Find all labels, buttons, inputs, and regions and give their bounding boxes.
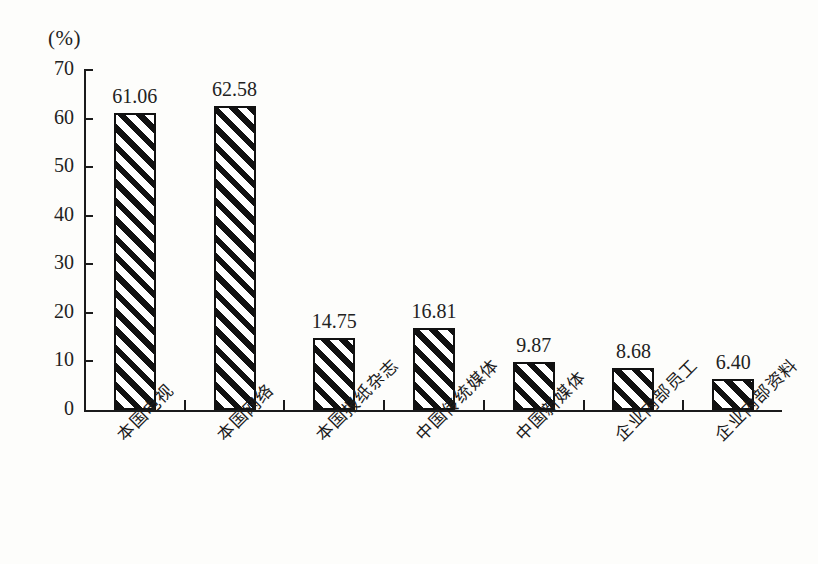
bar-value-label-2: 14.75 xyxy=(289,310,379,333)
x-tick-3 xyxy=(383,400,385,411)
x-tick-2 xyxy=(283,400,285,411)
y-tick-label-10: 10 xyxy=(34,348,74,371)
bar-1 xyxy=(214,106,256,410)
y-tick-label-40: 40 xyxy=(34,203,74,226)
y-tick-label-70: 70 xyxy=(34,57,74,80)
x-tick-6 xyxy=(682,400,684,411)
y-tick-label-50: 50 xyxy=(34,154,74,177)
y-tick-20 xyxy=(84,312,93,314)
y-tick-10 xyxy=(84,360,93,362)
y-tick-30 xyxy=(84,263,93,265)
y-tick-label-20: 20 xyxy=(34,300,74,323)
bar-0 xyxy=(114,113,156,410)
y-axis-unit-label: (%) xyxy=(48,26,81,51)
bar-value-label-5: 8.68 xyxy=(588,340,678,363)
y-tick-label-0: 0 xyxy=(34,397,74,420)
y-tick-40 xyxy=(84,215,93,217)
bar-value-label-4: 9.87 xyxy=(489,334,579,357)
bar-chart: (%) 010203040506070 61.0662.5814.7516.81… xyxy=(0,0,818,564)
x-tick-5 xyxy=(583,400,585,411)
x-tick-4 xyxy=(483,400,485,411)
bar-value-label-3: 16.81 xyxy=(389,300,479,323)
x-tick-1 xyxy=(184,400,186,411)
y-tick-label-60: 60 xyxy=(34,106,74,129)
y-tick-50 xyxy=(84,166,93,168)
bar-value-label-1: 62.58 xyxy=(190,78,280,101)
y-tick-label-30: 30 xyxy=(34,251,74,274)
y-tick-70 xyxy=(84,69,93,71)
y-tick-60 xyxy=(84,118,93,120)
bar-value-label-0: 61.06 xyxy=(90,85,180,108)
